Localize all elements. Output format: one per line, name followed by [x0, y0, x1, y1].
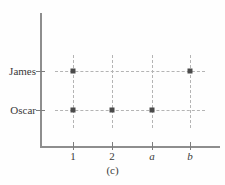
y-axis-tick [36, 71, 45, 72]
data-point [150, 108, 155, 113]
data-point [71, 108, 76, 113]
y-axis-label-oscar: Oscar [10, 105, 36, 116]
grid-line-horizontal [55, 71, 205, 72]
grid-line-vertical [152, 55, 153, 128]
x-axis-tick [73, 142, 74, 150]
x-axis-label-a: a [149, 151, 155, 162]
x-axis-label-1: 1 [70, 151, 76, 162]
grid-line-vertical [190, 55, 191, 128]
data-point [110, 108, 115, 113]
x-axis-tick [112, 142, 113, 150]
data-point [71, 69, 76, 74]
data-point [188, 69, 193, 74]
x-axis-tick [152, 142, 153, 150]
figure-caption: (c) [0, 165, 225, 176]
x-axis-line [40, 146, 220, 148]
x-axis-label-2: 2 [109, 151, 115, 162]
relation-scatter-figure: James Oscar 1 2 a b (c) [0, 0, 225, 185]
y-axis-tick [36, 110, 45, 111]
x-axis-tick [190, 142, 191, 150]
y-axis-line [40, 13, 42, 148]
y-axis-label-james: James [9, 66, 36, 77]
grid-line-vertical [112, 55, 113, 128]
x-axis-label-b: b [187, 151, 193, 162]
grid-line-vertical [73, 55, 74, 128]
grid-line-horizontal [55, 110, 205, 111]
